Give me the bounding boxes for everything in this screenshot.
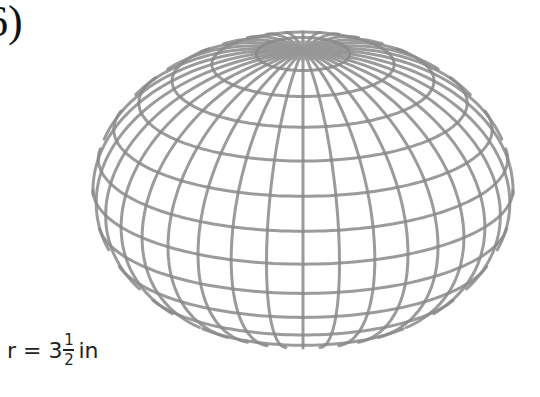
radius-unit: in (78, 338, 98, 363)
fraction-numerator: 1 (64, 332, 74, 348)
pole-cap (267, 40, 339, 60)
sphere-grid-lines (93, 32, 513, 348)
radius-prefix: r = 3 (7, 338, 62, 363)
fraction-denominator: 2 (64, 352, 74, 368)
fraction-one-half: 1 2 (63, 332, 74, 368)
radius-label: r = 3 1 2 in (7, 320, 99, 380)
